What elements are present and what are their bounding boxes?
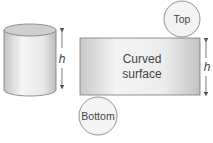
cylinder-top-ellipse	[4, 24, 56, 36]
cylinder-height-label: h	[59, 52, 66, 66]
top-label: Top	[174, 13, 191, 25]
curved-label-line1: Curved	[123, 52, 162, 66]
bottom-label: Bottom	[81, 110, 115, 122]
curved-label-line2: surface	[122, 67, 162, 81]
cylinder-net-diagram: h Top Curved surface Bottom h	[0, 0, 213, 143]
cylinder	[4, 24, 56, 96]
net-height-label: h	[204, 60, 211, 74]
